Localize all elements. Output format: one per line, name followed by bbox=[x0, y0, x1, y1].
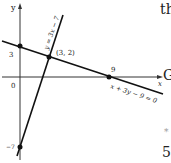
point-label-neg7: −7 bbox=[6, 143, 15, 150]
side-text-top: th bbox=[160, 1, 171, 17]
side-bullet: * bbox=[164, 127, 169, 137]
y-axis-label: y bbox=[10, 3, 16, 12]
point-label-9: 9 bbox=[111, 66, 115, 74]
point-9-0 bbox=[107, 75, 112, 80]
line-x-plus-3y-minus-9 bbox=[2, 41, 163, 94]
x-axis-label: x bbox=[158, 80, 162, 88]
point-0-neg7 bbox=[18, 145, 23, 150]
origin-label: 0 bbox=[11, 82, 15, 90]
point-0-3 bbox=[18, 44, 23, 49]
y-axis-arrow-icon bbox=[18, 3, 22, 9]
point-3-2 bbox=[47, 55, 52, 60]
coordinate-graph: y x 0 3 (3, 2) 9 −7 y = 3x − 7 x + 3y − … bbox=[0, 0, 171, 163]
point-label-3-2: (3, 2) bbox=[56, 49, 75, 57]
equation-label-line1: y = 3x − 7 bbox=[42, 14, 61, 51]
point-label-3: 3 bbox=[9, 51, 13, 59]
side-text-bottom: 5 bbox=[162, 144, 171, 160]
equation-label-line2: x + 3y − 9 = 0 bbox=[109, 82, 158, 105]
side-text-middle: G bbox=[163, 67, 171, 83]
line-y-eq-3x-minus-7 bbox=[17, 15, 63, 156]
